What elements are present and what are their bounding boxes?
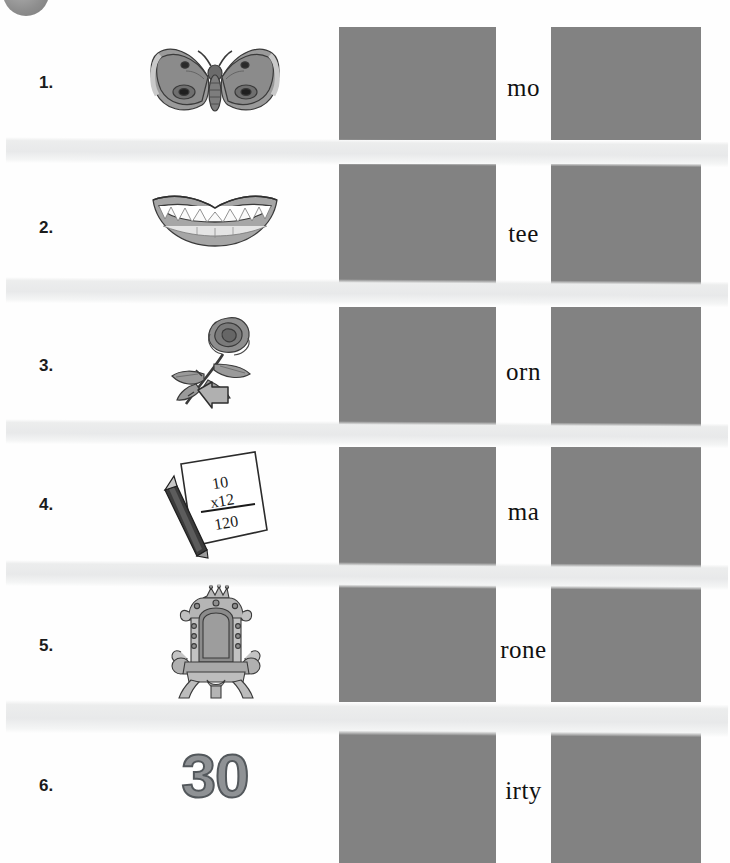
scan-stripe bbox=[6, 700, 728, 737]
answer-blank-before[interactable] bbox=[339, 164, 496, 286]
word-fragment: orn bbox=[496, 358, 551, 386]
throne-icon bbox=[163, 582, 267, 700]
answer-blank-after[interactable] bbox=[551, 27, 701, 140]
worksheet-row: 3. bbox=[0, 300, 730, 428]
answer-blank-after[interactable] bbox=[551, 447, 701, 568]
answer-blank-before[interactable] bbox=[339, 27, 496, 140]
answer-blank-after[interactable] bbox=[551, 164, 701, 286]
worksheet-row: 1. bbox=[0, 0, 730, 140]
answer-blank-before[interactable] bbox=[339, 447, 496, 568]
word-fragment: irty bbox=[496, 777, 551, 805]
worksheet-row: 5. bbox=[0, 578, 730, 702]
word-fragment: rone bbox=[496, 636, 551, 664]
row-number: 2. bbox=[39, 218, 53, 238]
scan-stripe bbox=[6, 277, 728, 307]
worksheet-page: 1. bbox=[0, 0, 730, 863]
picture-math: 10 x12 120 bbox=[120, 446, 310, 561]
moth-icon bbox=[140, 35, 290, 125]
answer-blank-after[interactable] bbox=[551, 581, 701, 702]
picture-throne bbox=[120, 582, 310, 700]
row-number: 4. bbox=[39, 495, 53, 515]
scan-stripe bbox=[6, 419, 728, 448]
scan-stripe bbox=[6, 560, 728, 590]
answer-blank-after[interactable] bbox=[551, 307, 701, 428]
worksheet-row: 4. 10 x12 120 ma bbox=[0, 438, 730, 568]
answer-blank-before[interactable] bbox=[339, 581, 496, 702]
rose-thorn-icon bbox=[150, 308, 280, 418]
worksheet-row: 6. 30 irty bbox=[0, 730, 730, 863]
answer-blank-before[interactable] bbox=[339, 730, 496, 863]
picture-moth bbox=[120, 35, 310, 125]
scan-stripe bbox=[6, 137, 728, 167]
number-thirty-icon: 30 bbox=[120, 745, 310, 807]
teeth-icon bbox=[145, 186, 285, 252]
answer-blank-before[interactable] bbox=[339, 307, 496, 428]
row-number: 3. bbox=[39, 356, 53, 376]
math-paper-icon: 10 x12 120 bbox=[155, 446, 275, 561]
row-number: 5. bbox=[39, 636, 53, 656]
answer-blank-after[interactable] bbox=[551, 730, 701, 863]
math-line-1: 10 bbox=[211, 473, 229, 492]
row-number: 1. bbox=[39, 73, 53, 93]
word-fragment: ma bbox=[496, 498, 551, 526]
picture-thorn bbox=[120, 308, 310, 418]
word-fragment: mo bbox=[496, 74, 551, 102]
worksheet-row: 2. tee bbox=[0, 158, 730, 286]
row-number: 6. bbox=[39, 776, 53, 796]
word-fragment: tee bbox=[496, 220, 551, 248]
picture-teeth bbox=[120, 186, 310, 252]
